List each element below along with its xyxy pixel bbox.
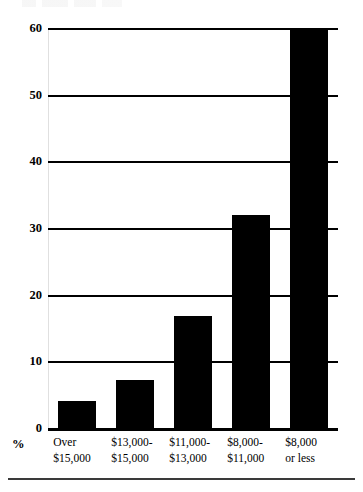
y-axis-tick-label: 50 — [12, 89, 42, 102]
y-axis-tick-label: 0 — [12, 422, 42, 435]
y-axis-tick-label: 60 — [12, 22, 42, 35]
x-axis-category-label: Over$15,000 — [53, 434, 90, 466]
x-axis-category-label: $13,000-$15,000 — [111, 434, 152, 466]
category-label-line: $8,000- — [227, 436, 262, 448]
bar — [290, 28, 327, 428]
x-axis-category-label: $11,000-$13,000 — [169, 434, 210, 466]
bar — [232, 215, 269, 428]
bar — [116, 380, 153, 428]
bottom-divider-rule — [8, 478, 355, 480]
category-label-line: $13,000- — [111, 436, 152, 448]
category-label-line: $11,000- — [169, 436, 210, 448]
category-label-line: or less — [285, 450, 317, 466]
category-label-line: $15,000 — [53, 450, 90, 466]
category-label-line: $8,000 — [285, 436, 317, 448]
x-axis-category-label: $8,000-$11,000 — [227, 434, 264, 466]
y-axis-tick-label: 20 — [12, 289, 42, 302]
x-axis-category-labels: Over$15,000$13,000-$15,000$11,000-$13,00… — [0, 434, 363, 478]
x-axis-category-label: $8,000or less — [285, 434, 317, 466]
bar — [58, 401, 95, 428]
category-label-line: $15,000 — [111, 450, 152, 466]
bar-chart-figure: 0102030405060 % Over$15,000$13,000-$15,0… — [0, 0, 363, 492]
category-label-line: $11,000 — [227, 450, 264, 466]
y-axis-tick-label: 40 — [12, 155, 42, 168]
bar — [174, 316, 211, 428]
category-label-line: $13,000 — [169, 450, 210, 466]
x-axis-baseline — [48, 428, 338, 431]
plot-area: 0102030405060 — [0, 0, 363, 440]
y-axis-tick-label: 10 — [12, 355, 42, 368]
category-label-line: Over — [53, 436, 76, 448]
y-axis-tick-label: 30 — [12, 222, 42, 235]
